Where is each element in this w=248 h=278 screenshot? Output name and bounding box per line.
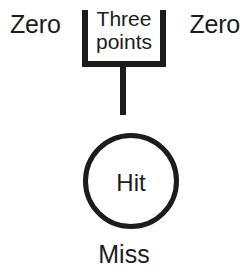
hit-label: Hit bbox=[88, 171, 174, 195]
bracket-right-arm bbox=[160, 10, 166, 67]
u-bracket-three-points: Three points bbox=[82, 10, 166, 67]
zero-label-right: Zero bbox=[189, 12, 240, 37]
miss-label: Miss bbox=[0, 242, 248, 267]
three-points-label-line1: Three bbox=[88, 7, 160, 30]
vertical-post bbox=[120, 65, 126, 115]
three-points-label: Three points bbox=[88, 7, 160, 53]
three-points-label-line2: points bbox=[88, 30, 160, 53]
zero-label-left: Zero bbox=[10, 12, 61, 37]
hit-target-circle: Hit bbox=[83, 133, 179, 229]
diagram-canvas: Zero Zero Three points Hit Miss bbox=[0, 0, 248, 278]
